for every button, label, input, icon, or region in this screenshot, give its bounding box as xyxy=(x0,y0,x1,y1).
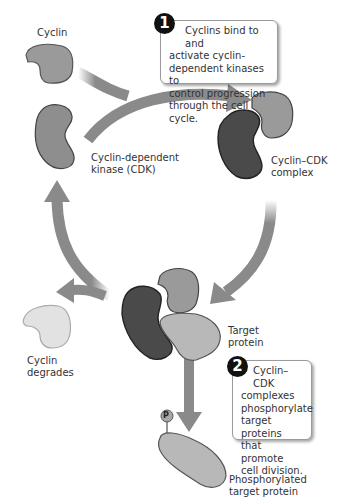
cdk-label: Cyclin-dependent kinase (CDK) xyxy=(91,152,179,176)
arrow-to-phosphorylated xyxy=(176,358,202,432)
callout-step-1: Cyclins bind to and activate cyclin- dep… xyxy=(160,20,278,84)
target-label-line2: protein xyxy=(228,337,264,349)
complex-with-target-shape xyxy=(122,269,220,361)
callout-2-line: phosphorylate xyxy=(241,403,305,416)
cdk-label-line2: kinase (CDK) xyxy=(91,164,179,176)
callout-1-line: Cyclins bind to and xyxy=(169,25,271,50)
degrades-label-line2: degrades xyxy=(27,367,74,379)
cyclin-shape xyxy=(26,44,73,83)
cyclin-degrades-label: Cyclin degrades xyxy=(27,355,74,379)
callout-1-line: activate cyclin- xyxy=(169,50,271,63)
phosphorylated-label: Phosphorylated target protein xyxy=(229,474,307,498)
cdk-shape xyxy=(35,105,74,169)
degrades-label-line1: Cyclin xyxy=(27,355,74,367)
callout-2-line: target proteins xyxy=(241,415,305,440)
complex-label: Cyclin–CDK complex xyxy=(271,155,328,179)
phospho-label-line2: target protein xyxy=(229,486,307,498)
callout-2-line: complexes xyxy=(241,390,305,403)
callout-1-line: through the cell cycle. xyxy=(169,100,271,125)
phosphate-label: P xyxy=(163,410,169,422)
target-label-line1: Target xyxy=(228,325,264,337)
callout-2-line: Cyclin–CDK xyxy=(241,365,305,390)
callout-1-line: control progression xyxy=(169,88,271,101)
step-1-badge: 1 xyxy=(154,13,175,34)
target-protein-label: Target protein xyxy=(228,325,264,349)
cyclin-label: Cyclin xyxy=(37,27,67,39)
arrow-to-cdk xyxy=(44,180,110,296)
complex-label-line1: Cyclin–CDK xyxy=(271,155,328,167)
step-2-badge: 2 xyxy=(227,356,248,377)
degraded-cyclin-shape xyxy=(23,306,70,349)
callout-2-line: cell division. xyxy=(241,465,305,478)
cdk-label-line1: Cyclin-dependent xyxy=(91,152,179,164)
phosphorylated-protein-shape xyxy=(159,420,226,487)
complex-label-line2: complex xyxy=(271,167,328,179)
callout-1-line: dependent kinases to xyxy=(169,63,271,88)
callout-2-line: that promote xyxy=(241,440,305,465)
arrow-to-target xyxy=(210,200,271,304)
